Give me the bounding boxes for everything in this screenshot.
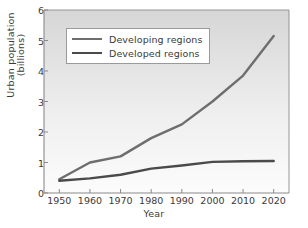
chart-figure: Urban population (billions) Year 0123456… — [0, 0, 308, 228]
legend-label: Developing regions — [109, 34, 203, 45]
legend-item: Developed regions — [72, 46, 203, 60]
legend-label: Developed regions — [109, 48, 200, 59]
legend-color-swatch — [72, 52, 102, 54]
legend-item: Developing regions — [72, 32, 203, 46]
legend: Developing regionsDeveloped regions — [66, 28, 210, 64]
legend-color-swatch — [72, 38, 102, 40]
